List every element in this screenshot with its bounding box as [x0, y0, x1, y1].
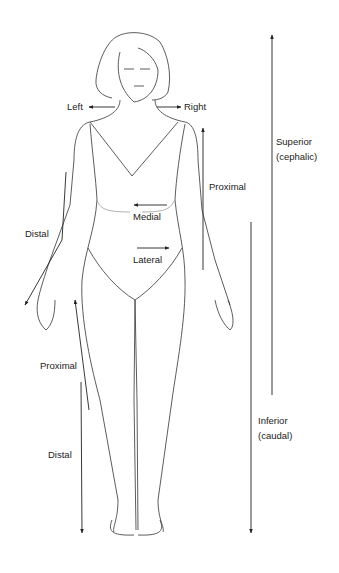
label-proximal-leg: Proximal [40, 360, 77, 371]
label-right: Right [184, 101, 206, 112]
label-superior: Superior [276, 136, 312, 147]
label-lateral: Lateral [133, 254, 162, 265]
proximal-leg-arrow [75, 300, 89, 410]
distal-leg-arrow [81, 382, 82, 533]
label-caudal: (caudal) [258, 430, 292, 441]
label-medial: Medial [133, 211, 161, 222]
label-distal-arm: Distal [25, 228, 49, 239]
anatomy-figure [0, 0, 339, 573]
label-distal-leg: Distal [48, 449, 72, 460]
label-proximal-arm: Proximal [209, 181, 246, 192]
label-cephalic: (cephalic) [276, 151, 317, 162]
label-inferior: Inferior [258, 415, 288, 426]
label-left: Left [67, 101, 83, 112]
